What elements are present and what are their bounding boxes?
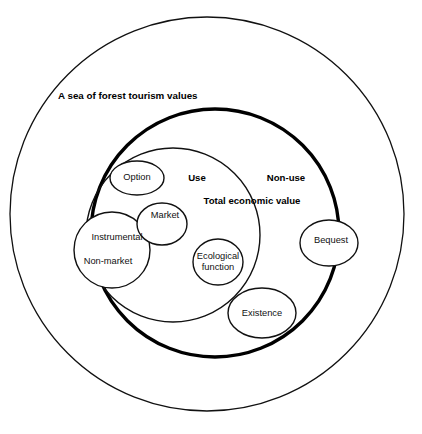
option-label: Option xyxy=(123,172,150,182)
total-economic-value-label: Total economic value xyxy=(204,195,301,206)
bequest-label: Bequest xyxy=(314,235,349,245)
diagram-title: A sea of forest tourism values xyxy=(58,90,198,101)
existence-label: Existence xyxy=(242,308,282,318)
instrumental-label: Instrumental xyxy=(91,232,142,242)
use-label: Use xyxy=(188,172,206,183)
market-label: Market xyxy=(151,210,180,220)
ecological-function-label-line1: Ecological xyxy=(197,251,239,261)
ecological-function-label-line2: function xyxy=(202,262,235,272)
non-market-label: Non-market xyxy=(84,256,133,266)
non-use-label: Non-use xyxy=(267,172,305,183)
diagram-root: A sea of forest tourism values Use Non-u… xyxy=(0,0,422,434)
outer-circle-sea-of-values xyxy=(10,17,404,411)
market-bubble xyxy=(137,203,187,245)
forest-tourism-values-venn-diagram: A sea of forest tourism values Use Non-u… xyxy=(0,0,422,434)
